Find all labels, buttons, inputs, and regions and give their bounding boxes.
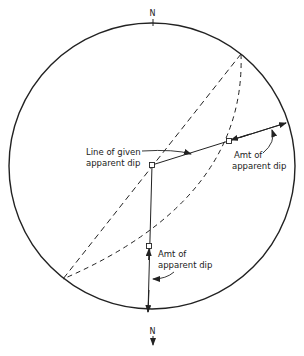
label-amt-right-2: apparent dip — [232, 161, 286, 171]
stereonet-diagram: N Line of given apparent dip Amt of appa… — [0, 0, 304, 356]
north-label-bottom: N — [150, 327, 156, 336]
apparent-dip-arrow-right-in — [231, 134, 250, 140]
label-amt-bottom-1: Amt of — [158, 249, 187, 259]
arc-intersection-bottom-marker — [147, 244, 152, 249]
label-line-of-given-1: Line of given — [86, 147, 141, 157]
leader-amt-right — [263, 130, 273, 153]
leader-amt-bottom — [153, 272, 174, 279]
apparent-dip-line-vertical — [148, 165, 152, 312]
label-amt-bottom-2: apparent dip — [158, 260, 212, 270]
north-label-top: N — [150, 9, 156, 18]
center-point-marker — [150, 163, 155, 168]
arc-intersection-right-marker — [227, 139, 232, 144]
leader-line-of-given — [142, 150, 191, 154]
label-line-of-given-2: apparent dip — [86, 158, 140, 168]
label-amt-right-1: Amt of — [234, 150, 263, 160]
